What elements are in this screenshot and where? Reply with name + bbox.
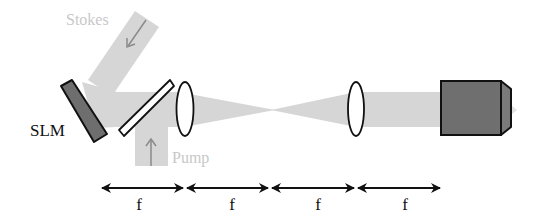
optical-setup-diagram: Stokes Pump SLM f f f f [0, 0, 546, 224]
slm-label: SLM [30, 121, 65, 140]
objective-lens [441, 81, 511, 135]
lens-1 [177, 82, 194, 136]
distance-label-4: f [402, 195, 408, 214]
distance-label-3: f [315, 195, 321, 214]
stokes-label: Stokes [66, 11, 109, 28]
distance-label-2: f [229, 195, 235, 214]
pump-label: Pump [172, 149, 209, 167]
diverging-beam [271, 92, 356, 127]
collimated-beam [356, 92, 446, 127]
distance-label-1: f [136, 195, 142, 214]
converging-beam [184, 93, 275, 127]
lens-2 [348, 82, 364, 136]
